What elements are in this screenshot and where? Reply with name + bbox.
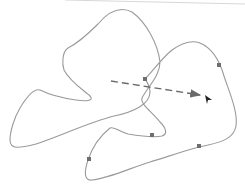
control-point-marker[interactable] [150,133,154,137]
control-point-marker[interactable] [197,144,201,148]
dashed-direction-arrow [111,81,200,95]
control-point-marker[interactable] [143,77,147,81]
diagram-canvas [0,0,245,185]
closed-freeform-curve[interactable] [10,10,236,180]
control-point-marker[interactable] [87,157,91,161]
top-border-line [65,0,245,4]
control-point-markers [87,63,221,161]
control-point-marker[interactable] [217,63,221,67]
mouse-cursor-icon [205,95,212,104]
